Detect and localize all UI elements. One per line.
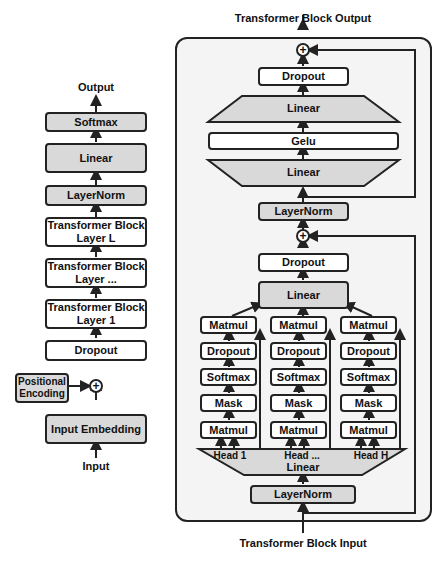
transformer-block-layer-dots: Transformer Block Layer ... <box>45 258 147 288</box>
head-matmul-bottom: Matmul <box>270 421 327 439</box>
head-dropout: Dropout <box>200 342 257 360</box>
head-matmul-bottom: Matmul <box>200 421 257 439</box>
head-matmul-top: Matmul <box>270 316 327 334</box>
gelu-box: Gelu <box>208 132 399 150</box>
attn-dropout-box: Dropout <box>258 253 349 272</box>
input-label: Input <box>76 460 116 472</box>
softmax-box: Softmax <box>45 112 147 132</box>
head-dropout: Dropout <box>340 342 397 360</box>
add-icon: + <box>89 379 103 393</box>
head-matmul-top: Matmul <box>200 316 257 334</box>
input-embedding-box: Input Embedding <box>45 414 147 444</box>
mlp-linear-bottom-label: Linear <box>258 166 349 178</box>
transformer-block-layer-l: Transformer Block Layer L <box>45 217 147 247</box>
head-mask: Mask <box>340 394 397 412</box>
head-label: Head ... <box>280 450 324 461</box>
mlp-dropout-box: Dropout <box>258 67 349 86</box>
head-softmax: Softmax <box>270 368 327 386</box>
head-softmax: Softmax <box>340 368 397 386</box>
head-dropout: Dropout <box>270 342 327 360</box>
residual-add-icon: + <box>296 43 310 57</box>
mlp-layernorm-box: LayerNorm <box>258 202 349 221</box>
dropout-box: Dropout <box>45 340 147 361</box>
mlp-linear-top-label: Linear <box>258 102 349 114</box>
output-label: Output <box>76 81 116 93</box>
linear-box: Linear <box>45 143 147 173</box>
head-matmul-top: Matmul <box>340 316 397 334</box>
attn-linear-box: Linear <box>258 281 349 309</box>
head-mask: Mask <box>200 394 257 412</box>
residual-add-icon-2: + <box>296 229 310 243</box>
head-label: Head 1 <box>210 450 250 461</box>
block-input-label: Transformer Block Input <box>233 537 373 549</box>
head-label: Head H <box>350 450 392 461</box>
head-matmul-bottom: Matmul <box>340 421 397 439</box>
block-output-label: Transformer Block Output <box>233 12 373 24</box>
attn-layernorm-box: LayerNorm <box>250 485 356 504</box>
head-softmax: Softmax <box>200 368 257 386</box>
transformer-block-layer-1: Transformer Block Layer 1 <box>45 299 147 329</box>
qkv-linear-label: Linear <box>278 461 328 473</box>
head-mask: Mask <box>270 394 327 412</box>
positional-encoding-box: Positional Encoding <box>15 373 69 403</box>
layernorm-box: LayerNorm <box>45 185 147 206</box>
